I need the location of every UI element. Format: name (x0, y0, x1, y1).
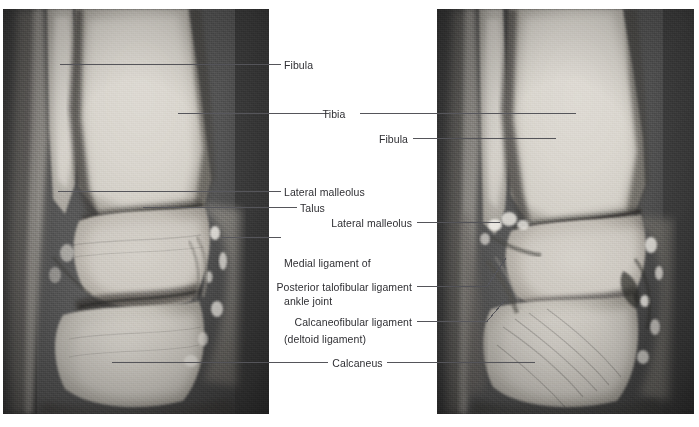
label-lateral-malleolus-right: Lateral malleolus (300, 217, 412, 230)
label-medial-ligament: Medial ligament of ankle joint (deltoid … (284, 232, 371, 371)
label-medial-ligament-line-1: Medial ligament of (284, 257, 371, 270)
label-posterior-talofibular-ligament: Posterior talofibular ligament (256, 281, 412, 294)
label-talus: Talus (300, 202, 325, 215)
label-medial-ligament-line-3: (deltoid ligament) (284, 333, 371, 346)
anatomy-figure: Fibula Tibia Fibula Lateral malleolus Ta… (0, 0, 699, 427)
label-calcaneofibular-ligament: Calcaneofibular ligament (270, 316, 412, 329)
coronal-ankle-mri-image (3, 9, 269, 414)
label-medial-ligament-line-2: ankle joint (284, 295, 371, 308)
label-lateral-malleolus-left: Lateral malleolus (284, 186, 365, 199)
sagittal-ankle-mri-image (437, 9, 694, 414)
coronal-ankle-mri-panel (3, 9, 269, 414)
sagittal-ankle-mri-panel (437, 9, 694, 414)
label-calcaneus: Calcaneus (330, 357, 385, 370)
label-fibula-left: Fibula (284, 59, 313, 72)
label-fibula-right: Fibula (320, 133, 408, 146)
label-tibia: Tibia (310, 108, 358, 121)
